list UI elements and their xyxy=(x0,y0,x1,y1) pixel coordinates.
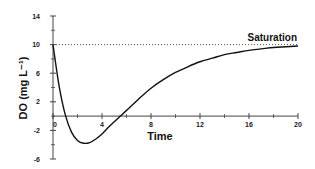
do-curve xyxy=(53,45,298,144)
y-tick-label: -2 xyxy=(34,127,40,134)
x-axis-title: Time xyxy=(147,130,172,142)
y-tick-label: 6 xyxy=(36,70,40,77)
x-tick-label: 4 xyxy=(100,121,104,128)
saturation-label: Saturation xyxy=(248,32,297,43)
x-tick-label: 0 xyxy=(53,121,57,128)
y-axis-title: DO (mg L⁻¹) xyxy=(17,56,29,119)
y-tick-label: 2 xyxy=(36,98,40,105)
do-chart: 141062-2-6048121620 Saturation Time DO (… xyxy=(0,0,315,169)
x-tick-label: 20 xyxy=(294,121,302,128)
y-tick-label: -6 xyxy=(34,156,40,163)
x-tick-label: 12 xyxy=(196,121,204,128)
x-tick-label: 16 xyxy=(245,121,253,128)
plot-area xyxy=(53,45,298,144)
y-tick-label: 10 xyxy=(32,41,40,48)
x-tick-label: 8 xyxy=(149,121,153,128)
y-tick-label: 14 xyxy=(32,13,40,20)
